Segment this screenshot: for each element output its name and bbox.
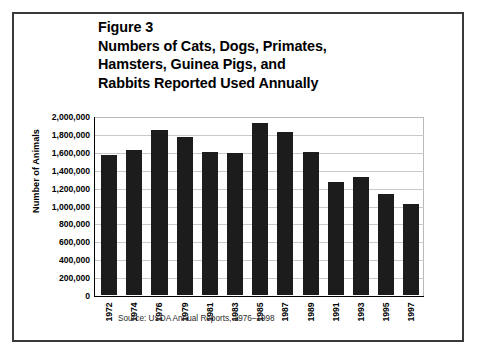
y-axis-tick-label: 200,000 [59, 273, 90, 283]
bars-layer: 1972197419761979198119831985198719891991… [97, 117, 425, 295]
bar-1987[interactable] [277, 132, 293, 294]
bar-group: 1979 [172, 117, 197, 295]
bar-1985[interactable] [252, 123, 268, 294]
y-axis-tick-label: 0 [85, 291, 90, 301]
title-line-1: Figure 3 [98, 18, 454, 37]
y-axis-title: Number of Animals [31, 106, 41, 236]
x-axis-tick-label-1997: 1997 [406, 302, 416, 321]
y-axis-tick-label: 1,600,000 [52, 148, 90, 158]
bar-1979[interactable] [177, 137, 193, 295]
x-axis-tick-label-1995: 1995 [381, 302, 391, 321]
bar-1993[interactable] [353, 177, 369, 294]
x-axis-tick-label-1987: 1987 [280, 302, 290, 321]
bar-1974[interactable] [126, 150, 142, 295]
bar-1976[interactable] [151, 130, 167, 294]
bar-group: 1972 [97, 117, 122, 295]
y-axis-tick-label: 1,800,000 [52, 130, 90, 140]
bar-group: 1993 [348, 117, 373, 295]
x-axis-tick-label-1989: 1989 [306, 302, 316, 321]
bar-group: 1981 [197, 117, 222, 295]
source-note: Source: USDA Annual Reports, 1976–1998 [118, 314, 275, 323]
bar-1981[interactable] [202, 152, 218, 295]
title-line-4: Rabbits Reported Used Annually [98, 74, 454, 93]
y-axis-tick-label: 1,000,000 [52, 202, 90, 212]
y-axis-tick-label: 2,000,000 [52, 112, 90, 122]
y-axis-tick-label: 600,000 [59, 237, 90, 247]
bar-group: 1985 [248, 117, 273, 295]
bar-1997[interactable] [403, 204, 419, 295]
bar-1995[interactable] [378, 194, 394, 294]
x-axis-tick-label-1993: 1993 [356, 302, 366, 321]
title-line-3: Hamsters, Guinea Pigs, and [98, 55, 454, 74]
figure-frame: Figure 3 Numbers of Cats, Dogs, Primates… [12, 12, 464, 342]
y-axis-tick-label: 1,200,000 [52, 184, 90, 194]
plot-wrapper: 2,000,0001,800,0001,600,0001,400,0001,20… [94, 117, 424, 297]
bar-group: 1989 [298, 117, 323, 295]
plot-area: 2,000,0001,800,0001,600,0001,400,0001,20… [94, 117, 424, 297]
bar-group: 1987 [273, 117, 298, 295]
bar-group: 1976 [147, 117, 172, 295]
bar-group: 1995 [374, 117, 399, 295]
title-line-2: Numbers of Cats, Dogs, Primates, [98, 37, 454, 56]
y-axis-tick-label: 800,000 [59, 219, 90, 229]
bar-group: 1974 [122, 117, 147, 295]
bar-1972[interactable] [101, 155, 117, 294]
bar-1983[interactable] [227, 153, 243, 294]
y-axis-tick-label: 400,000 [59, 255, 90, 265]
bar-group: 1991 [323, 117, 348, 295]
bar-group: 1997 [399, 117, 424, 295]
bar-group: 1983 [222, 117, 247, 295]
bar-1989[interactable] [303, 152, 319, 295]
bar-1991[interactable] [328, 182, 344, 295]
x-axis-tick-label-1972: 1972 [104, 302, 114, 321]
x-axis-tick-label-1991: 1991 [331, 302, 341, 321]
figure-title: Figure 3 Numbers of Cats, Dogs, Primates… [98, 18, 454, 92]
y-axis-tick-label: 1,400,000 [52, 166, 90, 176]
